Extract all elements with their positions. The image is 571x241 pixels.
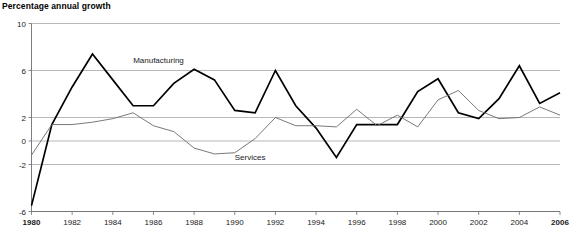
x-tick-label: 1994 bbox=[307, 218, 325, 227]
x-tick-label: 1984 bbox=[104, 218, 122, 227]
y-tick-label: 6 bbox=[22, 67, 27, 76]
y-tick-label: 0 bbox=[22, 137, 27, 146]
x-tick-label: 2004 bbox=[510, 218, 528, 227]
x-tick-label: 1998 bbox=[388, 218, 406, 227]
x-tick-label: 1982 bbox=[63, 218, 81, 227]
data-series bbox=[32, 54, 561, 206]
line-chart-plot: 10620-2-6 198019821984198619881990199219… bbox=[0, 0, 571, 241]
x-tick-label: 1990 bbox=[226, 218, 244, 227]
x-tick-label: 1992 bbox=[267, 218, 285, 227]
y-tick-label: -2 bbox=[19, 161, 27, 170]
x-axis: 1980198219841986198819901992199419961998… bbox=[23, 212, 570, 227]
series-line-services bbox=[32, 90, 561, 155]
series-label-manufacturing: Manufacturing bbox=[133, 56, 184, 65]
x-tick-label: 1980 bbox=[23, 218, 41, 227]
y-tick-label: 10 bbox=[17, 20, 26, 29]
y-tick-label: -6 bbox=[19, 208, 27, 217]
x-tick-label: 1986 bbox=[145, 218, 163, 227]
x-tick-label: 1988 bbox=[185, 218, 203, 227]
x-tick-label: 2000 bbox=[429, 218, 447, 227]
series-line-manufacturing bbox=[32, 54, 561, 206]
x-tick-label: 1996 bbox=[348, 218, 366, 227]
x-tick-label: 2006 bbox=[551, 218, 569, 227]
y-axis: 10620-2-6 bbox=[17, 20, 31, 217]
series-label-services: Services bbox=[235, 153, 266, 162]
chart-container: Percentage annual growth 10620-2-6 19801… bbox=[0, 0, 571, 241]
x-tick-label: 2002 bbox=[470, 218, 488, 227]
y-tick-label: 2 bbox=[22, 114, 27, 123]
